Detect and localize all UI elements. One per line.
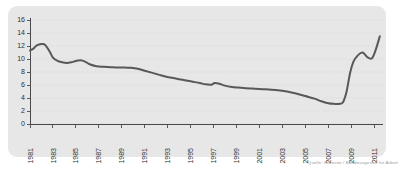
x-tick-label: 1993 — [164, 148, 171, 164]
x-tick-label: 2003 — [279, 148, 286, 164]
y-tick-label: 16 — [17, 16, 25, 23]
gridlines — [30, 20, 383, 124]
x-tick-label: 2001 — [256, 148, 263, 164]
x-axis-ticks — [30, 124, 374, 128]
line-chart: 0246810121416 19811983198519871989199119… — [0, 0, 406, 175]
series-line — [30, 36, 380, 104]
chart-figure: 0246810121416 19811983198519871989199119… — [0, 0, 406, 175]
x-tick-label: 1991 — [141, 148, 148, 164]
y-tick-label: 14 — [17, 29, 25, 36]
x-tick-label: 1983 — [50, 148, 57, 164]
y-tick-label: 4 — [21, 94, 25, 101]
x-tick-label: 1987 — [95, 148, 102, 164]
y-tick-label: 0 — [21, 120, 25, 127]
y-axis-tick-labels: 0246810121416 — [17, 16, 25, 127]
x-tick-label: 1999 — [233, 148, 240, 164]
x-tick-label: 1989 — [118, 148, 125, 164]
x-tick-label: 1995 — [187, 148, 194, 164]
x-tick-label: 1981 — [27, 148, 34, 164]
y-tick-label: 8 — [21, 68, 25, 75]
x-tick-label: 1997 — [210, 148, 217, 164]
y-tick-label: 12 — [17, 42, 25, 49]
source-caption: Quelle: Eurostat / Bundesagentur für Arb… — [308, 160, 398, 166]
y-tick-label: 10 — [17, 55, 25, 62]
y-tick-label: 2 — [21, 107, 25, 114]
y-tick-label: 6 — [21, 81, 25, 88]
x-tick-label: 1985 — [72, 148, 79, 164]
data-series — [30, 36, 380, 104]
